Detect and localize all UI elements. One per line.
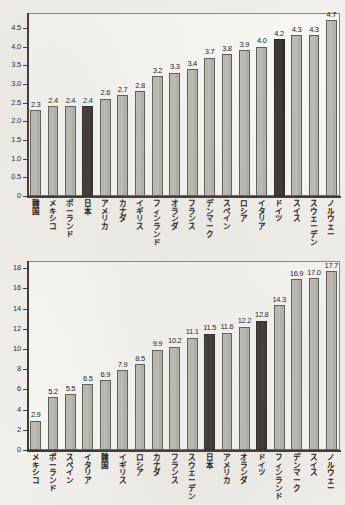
bar xyxy=(239,327,250,450)
x-axis-category-label: オランダ xyxy=(169,200,180,231)
bar xyxy=(309,278,320,450)
y-axis-tick xyxy=(23,47,27,48)
bar-value-label: 2.9 xyxy=(26,411,46,419)
y-axis-label: 4.0 xyxy=(0,43,21,51)
bar-value-label: 3.4 xyxy=(182,60,202,68)
y-axis-label: 8 xyxy=(0,365,21,373)
y-axis-tick xyxy=(23,309,27,310)
y-axis-label: 0.5 xyxy=(0,173,21,181)
bar xyxy=(48,397,59,450)
y-axis-label: 3.0 xyxy=(0,80,21,88)
y-axis-label: 1.5 xyxy=(0,136,21,144)
y-axis-tick xyxy=(23,369,27,370)
y-axis-label: 2 xyxy=(0,426,21,434)
bar xyxy=(204,334,215,450)
x-axis-category-label: スイス xyxy=(291,200,302,223)
bar xyxy=(117,370,128,450)
bar xyxy=(326,20,337,196)
bar xyxy=(152,76,163,196)
x-axis-category-label: フランス xyxy=(169,454,180,485)
bar xyxy=(65,394,76,450)
bar-value-label: 2.4 xyxy=(78,97,98,105)
bar xyxy=(187,338,198,450)
y-axis-label: 4 xyxy=(0,406,21,414)
x-axis-category-label: ノルウェー xyxy=(326,454,337,493)
bar-value-label: 5.5 xyxy=(60,385,80,393)
x-axis-category-label: イタリア xyxy=(82,454,93,485)
bar xyxy=(100,99,111,196)
y-axis-tick xyxy=(23,121,27,122)
bar xyxy=(169,347,180,450)
bar xyxy=(326,271,337,450)
x-axis-category-label: 韓国 xyxy=(30,200,41,215)
x-axis-category-label: ロシア xyxy=(135,454,146,477)
bar-value-label: 12.8 xyxy=(252,311,272,319)
bar xyxy=(256,321,267,450)
bar-value-label: 4.3 xyxy=(304,26,324,34)
x-axis-category-label: カナダ xyxy=(117,200,128,223)
x-axis-category-label: アメリカ xyxy=(221,454,232,485)
bar xyxy=(274,305,285,450)
x-axis-line xyxy=(27,450,341,452)
y-axis-tick xyxy=(23,450,27,451)
x-axis-category-label: 日本 xyxy=(204,454,215,469)
x-axis-category-label: スウェーデン xyxy=(308,200,319,246)
y-axis-tick xyxy=(23,268,27,269)
y-axis-tick xyxy=(23,349,27,350)
bar xyxy=(65,106,76,196)
bar xyxy=(187,69,198,196)
y-axis-tick xyxy=(23,65,27,66)
x-axis-category-label: ドイツ xyxy=(274,200,285,223)
y-axis-label: 3.5 xyxy=(0,61,21,69)
x-axis-category-label: スペイン xyxy=(65,454,76,485)
x-axis-category-label: メキシコ xyxy=(30,454,41,485)
bar xyxy=(100,380,111,450)
bar xyxy=(135,364,146,450)
y-axis-label: 0 xyxy=(0,192,21,200)
bar xyxy=(222,333,233,450)
y-axis-tick xyxy=(23,28,27,29)
bar xyxy=(204,58,215,196)
bar xyxy=(309,35,320,196)
x-axis-category-label: オランダ xyxy=(239,454,250,485)
y-axis-label: 2.0 xyxy=(0,117,21,125)
y-axis-label: 2.5 xyxy=(0,99,21,107)
bar-chart-top: 00.51.01.52.02.53.03.54.04.52.3韓国2.4メキシコ… xyxy=(0,0,345,252)
x-axis-category-label: ドイツ xyxy=(256,454,267,477)
y-axis-tick xyxy=(23,159,27,160)
y-axis-label: 18 xyxy=(0,264,21,272)
y-axis-tick xyxy=(23,329,27,330)
y-axis-tick xyxy=(23,430,27,431)
x-axis-category-label: イギリス xyxy=(117,454,128,485)
bar-chart-bottom: 0246810121416182.9メキシコ5.2ポーランド5.5スペイン6.5… xyxy=(0,252,345,505)
bar xyxy=(82,106,93,196)
x-axis-category-label: デンマーク xyxy=(204,200,215,239)
bar-value-label: 8.5 xyxy=(130,355,150,363)
y-axis-line xyxy=(27,261,29,451)
bar xyxy=(222,54,233,196)
x-axis-category-label: ロシア xyxy=(239,200,250,223)
y-axis-tick xyxy=(23,196,27,197)
bar xyxy=(169,73,180,196)
x-axis-category-label: スイス xyxy=(308,454,319,477)
y-axis-tick xyxy=(23,177,27,178)
bar xyxy=(135,91,146,196)
x-axis-line xyxy=(27,196,341,198)
x-axis-category-label: ポーランド xyxy=(65,200,76,239)
bar-value-label: 4.7 xyxy=(321,11,341,19)
x-axis-category-label: フィンランド xyxy=(152,200,163,246)
bar-value-label: 17.7 xyxy=(321,262,341,270)
x-axis-category-label: ノルウェー xyxy=(326,200,337,239)
bar xyxy=(152,350,163,450)
x-axis-category-label: フランス xyxy=(187,200,198,231)
bar xyxy=(239,50,250,196)
x-axis-category-label: メキシコ xyxy=(48,200,59,231)
y-axis-label: 10 xyxy=(0,345,21,353)
x-axis-category-label: カナダ xyxy=(152,454,163,477)
bar-value-label: 2.8 xyxy=(130,82,150,90)
x-axis-category-label: デンマーク xyxy=(291,454,302,493)
bar-value-label: 14.3 xyxy=(269,296,289,304)
bar-value-label: 6.9 xyxy=(95,371,115,379)
y-axis-label: 6 xyxy=(0,385,21,393)
x-axis-category-label: イタリア xyxy=(256,200,267,231)
